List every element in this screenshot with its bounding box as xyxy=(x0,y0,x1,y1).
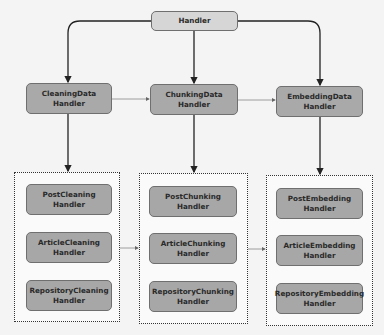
group-connectors xyxy=(0,0,384,335)
